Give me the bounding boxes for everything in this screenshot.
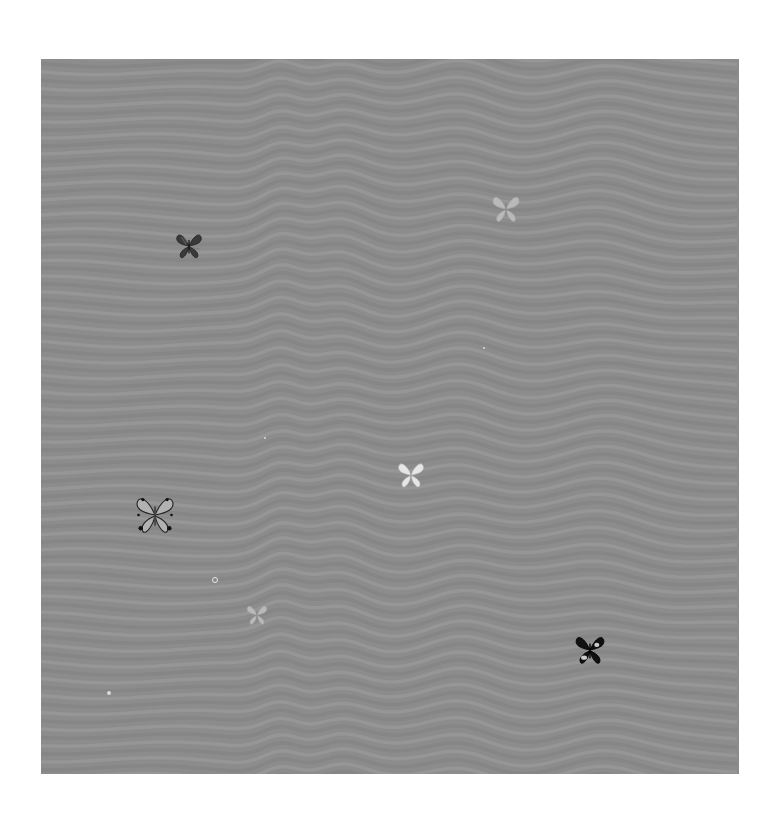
butterfly-icon [133,493,177,537]
speck [107,691,111,695]
speck [483,347,485,349]
butterfly-icon [396,460,426,490]
butterfly-icon [573,633,607,667]
speck [264,437,266,439]
butterfly-icon [490,193,522,225]
speck [212,577,218,583]
artwork-canvas [41,59,739,774]
butterfly-icon [174,231,204,261]
butterfly-icon [245,603,269,627]
wave-texture [41,59,739,774]
